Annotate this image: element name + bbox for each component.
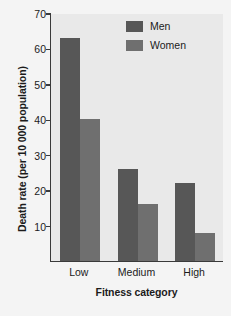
bar-high-women (195, 233, 215, 261)
y-tick-label: 40 (21, 115, 46, 125)
y-axis-tick-labels: 70605040302010 (21, 14, 46, 262)
y-tick-mark (46, 226, 51, 228)
chart-figure: Death rate (per 10 000 population) 70605… (0, 0, 231, 316)
bar-medium-men (118, 169, 138, 261)
bar-medium-women (138, 204, 158, 261)
y-tick-label: 30 (21, 151, 46, 161)
x-axis-label: Fitness category (50, 286, 223, 298)
bar-high-men (175, 183, 195, 261)
legend-label: Men (150, 21, 170, 32)
x-tick-label-low: Low (50, 266, 108, 278)
x-tick-label-medium: Medium (108, 266, 166, 278)
y-tick-label: 70 (21, 9, 46, 19)
y-tick-label: 50 (21, 80, 46, 90)
legend-label: Women (150, 40, 186, 51)
y-tick-label: 10 (21, 222, 46, 232)
y-tick-mark (46, 13, 51, 15)
x-tick-label-high: High (165, 266, 223, 278)
x-axis-tick-labels: LowMediumHigh (50, 266, 223, 280)
y-tick-label: 60 (21, 44, 46, 54)
legend-swatch-men-icon (126, 21, 143, 32)
y-tick-label: 20 (21, 186, 46, 196)
y-tick-mark (46, 190, 51, 192)
legend-item-women: Women (126, 37, 212, 53)
y-tick-mark (46, 155, 51, 157)
bar-low-women (80, 119, 100, 261)
chart-legend: MenWomen (126, 18, 212, 56)
y-tick-mark (46, 120, 51, 122)
y-tick-mark (46, 84, 51, 86)
legend-swatch-women-icon (126, 40, 143, 51)
bar-low-men (60, 38, 80, 261)
y-tick-mark (46, 49, 51, 51)
legend-item-men: Men (126, 18, 212, 34)
